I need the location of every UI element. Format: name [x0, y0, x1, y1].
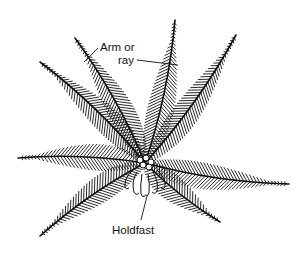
arm-upper-left-outer	[40, 62, 146, 163]
arms-group	[18, 20, 289, 236]
holdfast-leader-line	[141, 196, 147, 220]
crinoid-diagram: Arm or ray Holdfast	[0, 0, 303, 255]
crinoid-illustration	[0, 0, 303, 255]
arm-left	[18, 144, 145, 170]
ray-label: ray	[118, 54, 134, 67]
arm-label: Arm or	[100, 41, 135, 54]
holdfast-label: Holdfast	[112, 224, 154, 237]
